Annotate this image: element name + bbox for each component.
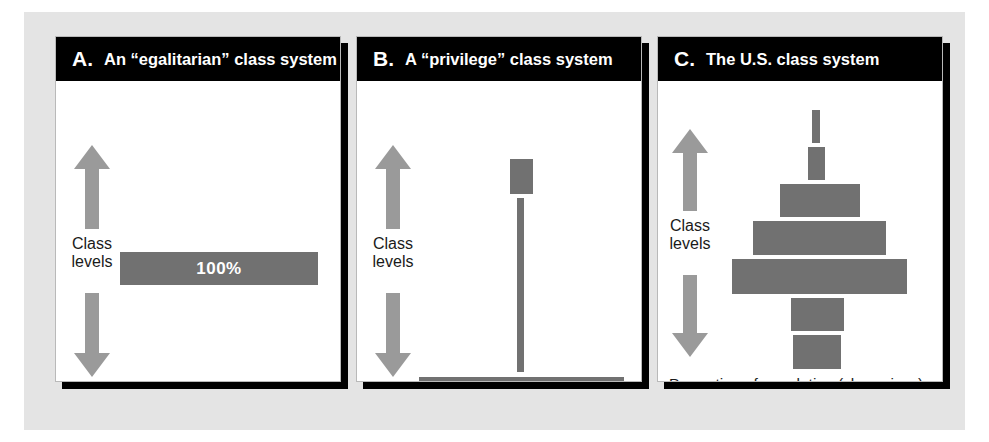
- panel-c-caption: Proportion of population (class sizes): [669, 375, 923, 381]
- down-arrow-icon: [373, 293, 413, 377]
- panel-c-bar-7: [793, 335, 841, 369]
- panel-c-bar-1: [812, 110, 820, 143]
- panel-b-bar-3: [419, 377, 624, 381]
- panel-b-title: A “privilege” class system: [405, 50, 613, 69]
- panel-c-title: The U.S. class system: [706, 50, 879, 69]
- panel-c: C. The U.S. class system Class levels: [657, 36, 943, 382]
- panel-c-bar-4: [753, 221, 886, 255]
- panel-c-body: Class levels Proportion of population (c…: [658, 81, 942, 381]
- panel-a-body: Class levels 100%: [56, 81, 340, 381]
- down-arrow-icon: [72, 293, 112, 377]
- figure-root: A. An “egalitarian” class system Class l…: [0, 0, 989, 442]
- panel-b-letter: B.: [373, 47, 394, 71]
- panel-a-header: A. An “egalitarian” class system: [56, 37, 340, 81]
- panel-c-bar-3: [780, 184, 860, 217]
- panel-b-axis-label: Class levels: [373, 235, 414, 271]
- down-arrow-icon: [670, 275, 710, 357]
- up-arrow-icon: [72, 145, 112, 229]
- panel-a: A. An “egalitarian” class system Class l…: [55, 36, 341, 382]
- up-arrow-icon: [373, 145, 413, 229]
- panel-b: B. A “privilege” class system Class leve…: [356, 36, 642, 382]
- panel-b-bar-1: [510, 159, 533, 194]
- panel-b-body: Class levels: [357, 81, 641, 381]
- panel-a-bar-1: 100%: [120, 252, 318, 285]
- panel-a-letter: A.: [72, 47, 93, 71]
- panel-c-axis-label: Class levels: [670, 217, 711, 253]
- panel-c-bar-6: [791, 298, 844, 331]
- panel-c-letter: C.: [674, 47, 695, 71]
- panel-a-axis-label: Class levels: [72, 235, 113, 271]
- panel-a-class-levels-axis: Class levels: [64, 81, 120, 381]
- panel-b-bar-2: [517, 198, 524, 372]
- panel-c-class-levels-axis: Class levels: [662, 81, 718, 381]
- panel-a-title: An “egalitarian” class system: [104, 50, 337, 69]
- panel-b-class-levels-axis: Class levels: [365, 81, 421, 381]
- panel-a-bar-1-value: 100%: [120, 259, 318, 279]
- panel-c-header: C. The U.S. class system: [658, 37, 942, 81]
- panel-c-bar-2: [808, 147, 825, 180]
- panel-c-bar-5: [732, 259, 907, 294]
- panel-b-header: B. A “privilege” class system: [357, 37, 641, 81]
- up-arrow-icon: [670, 129, 710, 211]
